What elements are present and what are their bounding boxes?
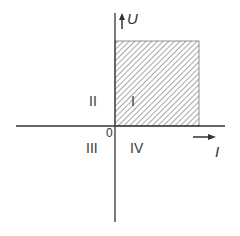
shaded-region-quadrant-1 (115, 41, 199, 126)
horizontal-axis-label: I (215, 143, 219, 160)
up-arrow-icon (119, 13, 125, 29)
right-arrow-icon (193, 134, 216, 140)
quadrant-label-4: IV (130, 140, 144, 156)
quadrant-diagram: U I 0 I II III IV (0, 0, 240, 236)
origin-label: 0 (106, 126, 113, 140)
vertical-axis-label: U (127, 10, 138, 27)
quadrant-label-2: II (89, 93, 97, 109)
quadrant-label-3: III (86, 140, 98, 156)
quadrant-label-1: I (131, 93, 135, 109)
